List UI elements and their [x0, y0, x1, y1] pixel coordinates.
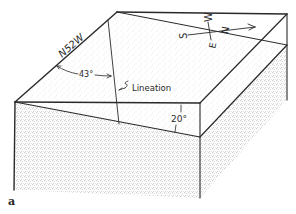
compass-west-label: W: [203, 12, 214, 22]
top-front-edge: [15, 102, 200, 103]
block-diagram: N52W 43° Lineation 20° S W N E: [0, 0, 296, 214]
compass-south-label: S: [178, 33, 189, 39]
pitch-angle-label: 43°: [79, 70, 93, 79]
dip-angle-label: 20°: [171, 114, 187, 124]
lineation-label: Lineation: [132, 83, 171, 93]
figure-label: a: [8, 195, 15, 208]
front-left-vertical-edge: [14, 102, 15, 190]
